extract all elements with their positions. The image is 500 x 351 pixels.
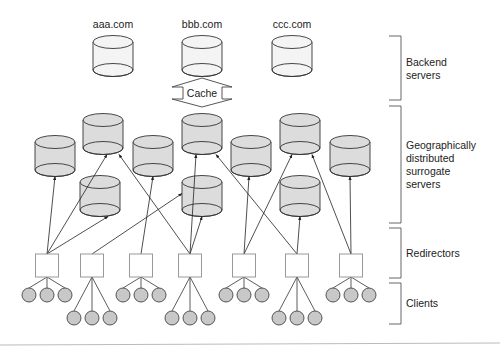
- tier-label-surrogate: Geographically distributed surrogate ser…: [406, 139, 479, 190]
- bottom-divider: [0, 343, 500, 345]
- client-link: [123, 277, 141, 288]
- bracket-surrogate: [389, 106, 401, 223]
- redirector-box: [233, 254, 256, 277]
- redirector-box: [340, 254, 363, 277]
- surrogate-server: [231, 136, 271, 177]
- surrogate-server: [330, 136, 370, 177]
- client-node: [103, 311, 117, 325]
- bracket-backend: [389, 36, 401, 100]
- surrogate-server: [280, 114, 320, 155]
- backend-label-ccc: ccc.com: [273, 18, 312, 30]
- redirect-edge: [350, 177, 351, 255]
- client-node: [290, 311, 304, 325]
- client-link: [172, 277, 190, 311]
- client-node: [308, 311, 322, 325]
- redirector-box: [130, 254, 153, 277]
- client-link: [47, 277, 65, 288]
- client-link: [74, 277, 92, 311]
- server-cylinders: [35, 36, 370, 217]
- cache-label: Cache: [187, 87, 218, 99]
- redirect-edge: [244, 177, 249, 255]
- client-link: [226, 277, 244, 288]
- redirector-box: [286, 254, 309, 277]
- surrogate-server: [80, 176, 120, 217]
- surrogate-server: [182, 176, 222, 217]
- redirector-box: [36, 254, 59, 277]
- client-node: [237, 288, 251, 302]
- backend-server-1: [93, 36, 133, 77]
- client-node: [362, 288, 376, 302]
- backend-server-3: [272, 36, 312, 77]
- tier-label-clients: Clients: [406, 297, 438, 309]
- client-link: [297, 277, 315, 311]
- redirector-box: [81, 254, 104, 277]
- client-node: [255, 288, 269, 302]
- client-node: [326, 288, 340, 302]
- client-node: [272, 311, 286, 325]
- client-node: [116, 288, 130, 302]
- client-node: [40, 288, 54, 302]
- backend-label-bbb: bbb.com: [182, 18, 223, 30]
- surrogate-server: [83, 114, 123, 155]
- client-link: [190, 277, 208, 311]
- redirector-box: [179, 254, 202, 277]
- client-link: [29, 277, 47, 288]
- client-link: [92, 277, 110, 311]
- surrogate-server: [133, 136, 173, 177]
- network-nodes: [22, 254, 376, 325]
- client-link: [333, 277, 351, 288]
- client-node: [58, 288, 72, 302]
- client-node: [201, 311, 215, 325]
- client-node: [165, 311, 179, 325]
- backend-server-2: [182, 36, 222, 77]
- client-node: [85, 311, 99, 325]
- redirect-edge: [47, 217, 108, 255]
- client-link: [141, 277, 159, 288]
- bracket-clients: [389, 283, 401, 324]
- bracket-redirectors: [389, 228, 401, 278]
- tier-brackets: [389, 36, 401, 324]
- backend-label-aaa: aaa.com: [93, 18, 134, 30]
- client-node: [67, 311, 81, 325]
- redirect-edge: [297, 217, 300, 255]
- tier-label-redirectors: Redirectors: [406, 247, 460, 259]
- client-node: [22, 288, 36, 302]
- cache-double-arrow: Cache: [172, 78, 232, 107]
- client-link: [244, 277, 262, 288]
- surrogate-server: [35, 136, 75, 177]
- client-link: [351, 277, 369, 288]
- client-link: [279, 277, 297, 311]
- tier-label-backend: Backend servers: [406, 56, 450, 81]
- client-node: [219, 288, 233, 302]
- client-node: [152, 288, 166, 302]
- cdn-architecture-diagram: aaa.com bbb.com ccc.com Cache Backend se…: [0, 0, 500, 351]
- surrogate-server: [182, 114, 222, 155]
- surrogate-server: [280, 176, 320, 217]
- client-node: [134, 288, 148, 302]
- client-node: [183, 311, 197, 325]
- client-node: [344, 288, 358, 302]
